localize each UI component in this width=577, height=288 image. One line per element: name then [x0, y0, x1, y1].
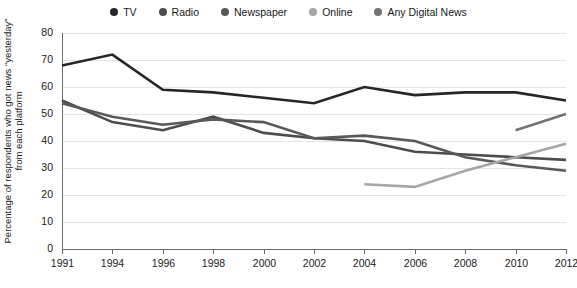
y-tick-label: 20: [41, 188, 53, 200]
x-tick-label: 1998: [202, 257, 226, 269]
y-tick-label: 40: [41, 134, 53, 146]
y-tick-label: 70: [41, 53, 53, 65]
series-line-newspaper: [62, 103, 566, 171]
y-tick-label: 30: [41, 161, 53, 173]
series-line-tv: [62, 55, 566, 104]
x-tick-label: 2008: [454, 257, 478, 269]
series-line-online: [364, 144, 566, 187]
y-tick-label: 60: [41, 80, 53, 92]
series-line-radio: [62, 101, 566, 160]
y-tick-label: 0: [47, 242, 53, 254]
x-tick-label: 2000: [253, 257, 277, 269]
x-tick-label: 1991: [51, 257, 75, 269]
line-chart: TVRadioNewspaperOnlineAny Digital News P…: [0, 0, 577, 288]
x-tick-label: 2002: [303, 257, 327, 269]
y-tick-label: 10: [41, 215, 53, 227]
x-tick-label: 2010: [505, 257, 529, 269]
x-tick-label: 1994: [101, 257, 125, 269]
plot-area: 0102030405060708019911994199619982000200…: [0, 0, 577, 288]
y-tick-label: 50: [41, 107, 53, 119]
plot-svg: 0102030405060708019911994199619982000200…: [0, 0, 577, 288]
x-tick-label: 2012: [555, 257, 577, 269]
x-tick-label: 2006: [404, 257, 428, 269]
x-tick-label: 2004: [353, 257, 377, 269]
x-tick-label: 1996: [152, 257, 176, 269]
series-line-any-digital-news: [516, 114, 566, 130]
y-tick-label: 80: [41, 26, 53, 38]
